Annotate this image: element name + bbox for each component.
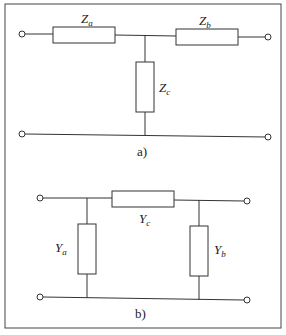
circuit-diagram: Za Zb Zc a) Yc Ya Yb b) (0, 0, 286, 335)
terminal (37, 195, 43, 201)
terminal (265, 34, 271, 40)
label-yc: Yc (139, 211, 150, 228)
terminal (19, 31, 25, 37)
label-za: Za (81, 11, 93, 28)
admittance-ya (78, 224, 96, 274)
label-ya: Ya (55, 240, 67, 257)
terminal (244, 297, 250, 303)
label-yb: Yb (214, 242, 226, 259)
caption-a: a) (137, 144, 147, 159)
terminal (244, 198, 250, 204)
wire (174, 200, 244, 201)
panel-b-pi-network: Yc Ya Yb b) (37, 191, 250, 321)
terminal (37, 294, 43, 300)
terminal (19, 131, 25, 137)
impedance-zb (176, 29, 238, 45)
label-zb: Zb (199, 13, 211, 30)
admittance-yb (190, 226, 208, 276)
panel-a-t-network: Za Zb Zc a) (19, 11, 271, 159)
terminal (265, 134, 271, 140)
impedance-za (53, 27, 115, 43)
figure-frame (5, 4, 281, 328)
label-zc: Zc (159, 80, 170, 97)
wire (43, 297, 244, 300)
wire (115, 35, 176, 36)
impedance-zc (136, 62, 154, 112)
caption-b: b) (135, 306, 146, 321)
admittance-yc (112, 191, 174, 207)
